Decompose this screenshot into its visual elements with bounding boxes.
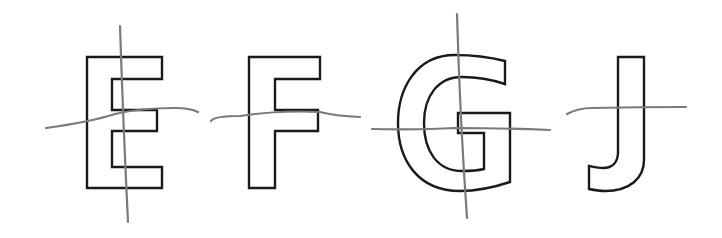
letter-f-outline	[249, 57, 320, 188]
letters-diagram	[0, 0, 722, 238]
letter-g	[372, 14, 550, 218]
letter-e	[46, 26, 198, 222]
letter-g-outline	[398, 55, 510, 191]
letter-e-vertical-axis	[120, 26, 128, 222]
letter-j-horizontal-axis	[567, 107, 686, 114]
letter-f	[211, 57, 360, 188]
letter-f-horizontal-axis	[211, 112, 360, 122]
letter-j	[567, 57, 686, 191]
letter-j-outline	[589, 57, 644, 191]
